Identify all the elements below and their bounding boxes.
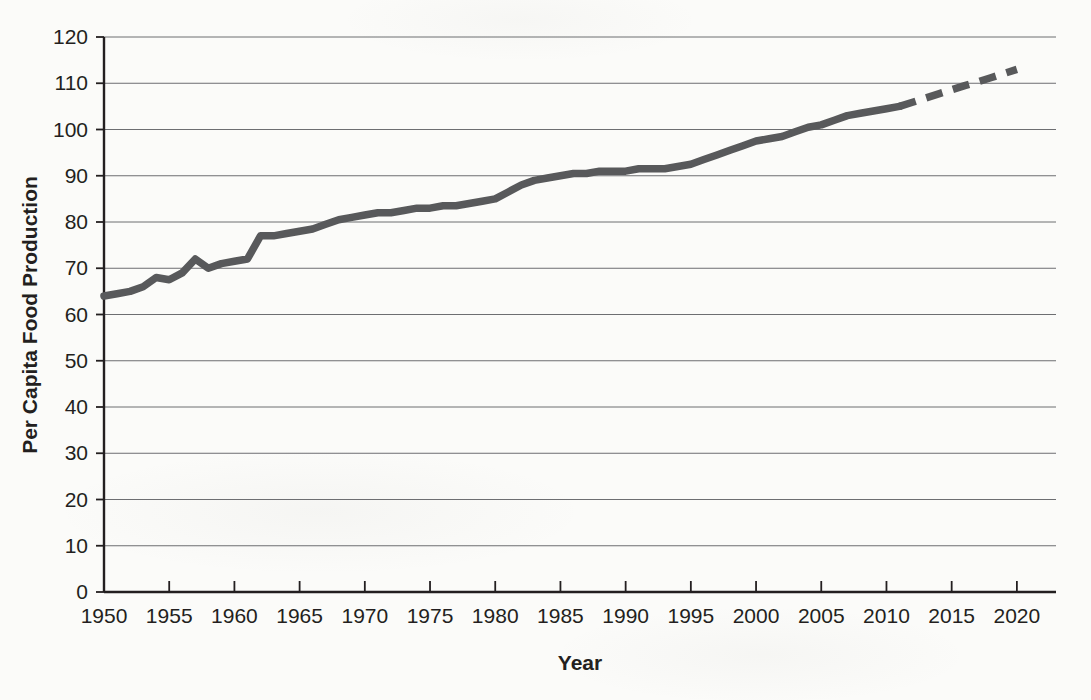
x-tick-label: 1965 [276,604,323,627]
y-tick-label: 50 [65,349,88,372]
x-tick-label: 2015 [928,604,975,627]
x-tick-label: 2005 [798,604,845,627]
y-axis-title: Per Capita Food Production [18,176,41,454]
x-tick-label: 1990 [602,604,649,627]
y-tick-label: 30 [65,441,88,464]
y-tick-label: 100 [53,118,88,141]
chart-figure: 0102030405060708090100110120 19501955196… [0,0,1091,700]
x-tick-label: 1950 [81,604,128,627]
x-tick-labels-group: 1950195519601965197019751980198519901995… [81,604,1041,627]
x-tick-label: 1975 [407,604,454,627]
x-tick-label: 1985 [537,604,584,627]
series-line-projected [900,69,1017,106]
y-tick-label: 110 [55,71,88,94]
line-chart-canvas: 0102030405060708090100110120 19501955196… [0,0,1091,700]
gridlines-group [104,37,1056,546]
x-tick-label: 2000 [733,604,780,627]
y-tick-label: 60 [65,303,88,326]
x-tick-label: 2010 [863,604,910,627]
y-tick-labels-group: 0102030405060708090100110120 [53,25,88,603]
y-tick-label: 90 [65,164,88,187]
series-line-observed [104,106,900,296]
y-tick-label: 20 [65,488,88,511]
y-tick-label: 10 [65,534,88,557]
x-tick-label: 1960 [211,604,258,627]
y-tick-label: 70 [65,256,88,279]
x-tick-marks-group [104,581,1017,592]
x-axis-title: Year [558,651,602,674]
x-tick-label: 2020 [994,604,1041,627]
x-tick-label: 1980 [472,604,519,627]
x-tick-label: 1955 [146,604,193,627]
x-tick-label: 1995 [667,604,714,627]
y-tick-label: 0 [76,580,88,603]
y-tick-label: 40 [65,395,88,418]
y-tick-label: 120 [53,25,88,48]
y-tick-label: 80 [65,210,88,233]
x-tick-label: 1970 [341,604,388,627]
